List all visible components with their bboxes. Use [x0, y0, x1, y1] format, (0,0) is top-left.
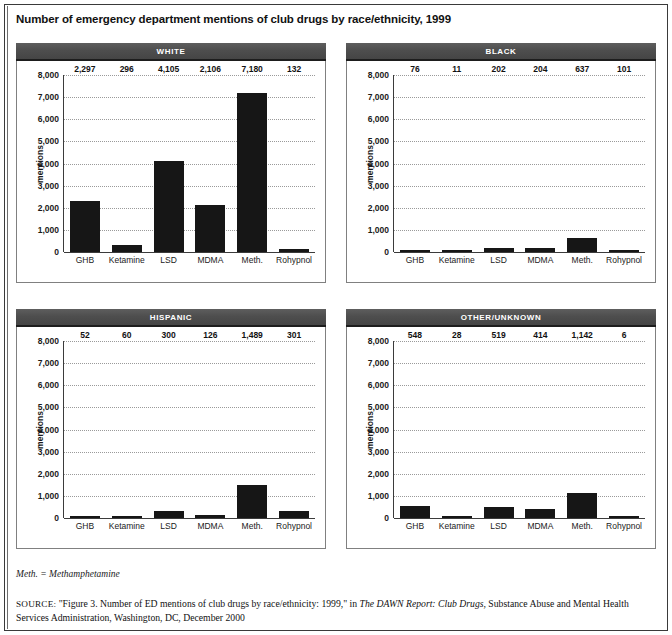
bar[interactable]: 2,297	[70, 201, 100, 252]
y-axis-tick-label: 2,000	[38, 469, 59, 479]
bar-value-label: 2,106	[200, 64, 221, 74]
plot: mentions8,0007,0006,0005,0004,0003,0002,…	[64, 341, 315, 518]
bar-slot: 414MDMA	[519, 341, 561, 518]
y-axis-tick-label: 5,000	[38, 136, 59, 146]
x-axis-tick-label: Rohypnol	[606, 521, 642, 531]
bar[interactable]: 202	[484, 248, 514, 252]
y-axis-tick-label: 6,000	[38, 114, 59, 124]
bar[interactable]: 296	[112, 245, 142, 252]
bar-slot: 7,180Meth.	[231, 75, 273, 252]
bar[interactable]: 414	[525, 509, 555, 518]
x-axis-tick-label: GHB	[406, 255, 424, 265]
y-axis-tick-label: 5,000	[38, 402, 59, 412]
bar[interactable]: 60	[112, 516, 142, 518]
bar-value-label: 414	[533, 330, 547, 340]
bar-value-label: 202	[491, 64, 505, 74]
bar-slot: 548GHB	[394, 341, 436, 518]
y-axis-tick-label: 3,000	[368, 181, 389, 191]
bar[interactable]: 76	[400, 250, 430, 252]
bar-value-label: 132	[287, 64, 301, 74]
y-axis-tick-label: 8,000	[368, 336, 389, 346]
y-axis-tick-label: 0	[384, 513, 389, 523]
bar[interactable]: 519	[484, 507, 514, 518]
x-axis-tick-label: Rohypnol	[276, 521, 312, 531]
bar[interactable]: 101	[609, 250, 639, 252]
bar[interactable]: 2,106	[195, 205, 225, 252]
y-axis-tick-label: 8,000	[368, 70, 389, 80]
bar-value-label: 300	[161, 330, 175, 340]
gridline	[394, 518, 645, 519]
bar-value-label: 1,142	[572, 330, 593, 340]
bar[interactable]: 28	[442, 516, 472, 518]
bar[interactable]: 11	[442, 250, 472, 252]
bar-value-label: 519	[491, 330, 505, 340]
y-axis-tick-label: 5,000	[368, 402, 389, 412]
x-axis-tick-label: Rohypnol	[606, 255, 642, 265]
bar[interactable]: 132	[279, 249, 309, 252]
bar-slot: 204MDMA	[519, 75, 561, 252]
bar-slot: 28Ketamine	[436, 341, 478, 518]
bar-value-label: 7,180	[242, 64, 263, 74]
panel-title: BLACK	[346, 43, 656, 61]
bar[interactable]: 7,180	[237, 93, 267, 252]
bar-slot: 4,105LSD	[148, 75, 190, 252]
x-axis-tick-label: LSD	[160, 521, 177, 531]
figure-title: Number of emergency department mentions …	[16, 13, 451, 25]
bar[interactable]: 1,489	[237, 485, 267, 518]
y-axis-tick-label: 3,000	[38, 447, 59, 457]
gridline	[64, 252, 315, 253]
figure-container: Number of emergency department mentions …	[0, 0, 672, 635]
x-axis-tick-label: Ketamine	[439, 521, 475, 531]
y-axis-tick-label: 7,000	[38, 358, 59, 368]
bar-slot: 300LSD	[148, 341, 190, 518]
bar[interactable]: 301	[279, 511, 309, 518]
bar[interactable]: 52	[70, 516, 100, 518]
bar[interactable]: 4,105	[154, 161, 184, 252]
x-axis-tick-label: Ketamine	[109, 521, 145, 531]
x-axis-tick-label: MDMA	[527, 521, 553, 531]
bar-slot: 132Rohypnol	[273, 75, 315, 252]
plot: mentions8,0007,0006,0005,0004,0003,0002,…	[64, 75, 315, 252]
bar[interactable]: 300	[154, 511, 184, 518]
bar-value-label: 76	[410, 64, 419, 74]
bar-slot: 6Rohypnol	[603, 341, 645, 518]
x-axis-tick-label: GHB	[406, 521, 424, 531]
bar-slot: 202LSD	[478, 75, 520, 252]
bar-slot: 1,142Meth.	[561, 341, 603, 518]
bar-value-label: 101	[617, 64, 631, 74]
x-axis-tick-label: Meth.	[572, 255, 593, 265]
bar-slot: 11Ketamine	[436, 75, 478, 252]
bar-slot: 637Meth.	[561, 75, 603, 252]
bar[interactable]: 204	[525, 248, 555, 253]
y-axis-tick-label: 5,000	[368, 136, 389, 146]
bar-group: 76GHB11Ketamine202LSD204MDMA637Meth.101R…	[394, 75, 645, 252]
bar-value-label: 52	[80, 330, 89, 340]
y-axis-tick-label: 0	[54, 513, 59, 523]
y-axis-tick-label: 1,000	[38, 225, 59, 235]
y-axis-tick-label: 2,000	[368, 469, 389, 479]
y-axis-tick-label: 0	[384, 247, 389, 257]
bar[interactable]: 1,142	[567, 493, 597, 518]
bar-value-label: 637	[575, 64, 589, 74]
bar-slot: 101Rohypnol	[603, 75, 645, 252]
panel-plot-area: mentions8,0007,0006,0005,0004,0003,0002,…	[16, 61, 326, 283]
bar[interactable]: 126	[195, 515, 225, 518]
y-axis-tick-label: 7,000	[38, 92, 59, 102]
bar-slot: 76GHB	[394, 75, 436, 252]
y-axis-tick-label: 1,000	[368, 491, 389, 501]
bar-slot: 60Ketamine	[106, 341, 148, 518]
y-axis-tick-label: 1,000	[38, 491, 59, 501]
y-axis-tick-label: 7,000	[368, 358, 389, 368]
bar[interactable]: 6	[609, 516, 639, 518]
bar-value-label: 1,489	[242, 330, 263, 340]
bar-value-label: 301	[287, 330, 301, 340]
bar-group: 52GHB60Ketamine300LSD126MDMA1,489Meth.30…	[64, 341, 315, 518]
y-axis-tick-label: 3,000	[38, 181, 59, 191]
bar[interactable]: 548	[400, 506, 430, 518]
y-axis-tick-label: 2,000	[368, 203, 389, 213]
bar-value-label: 6	[622, 330, 627, 340]
y-axis-tick-label: 1,000	[368, 225, 389, 235]
bar-value-label: 60	[122, 330, 131, 340]
y-axis-tick-label: 4,000	[368, 425, 389, 435]
bar[interactable]: 637	[567, 238, 597, 252]
